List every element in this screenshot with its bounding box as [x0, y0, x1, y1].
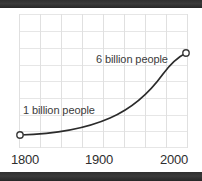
population-growth-figure: 1 billion people 6 billion people 1800 1… [0, 0, 202, 181]
x-axis-tick-1900: 1900 [85, 153, 113, 167]
plot-area: 1 billion people 6 billion people 1800 1… [0, 8, 202, 172]
line-chart-svg [0, 8, 202, 172]
bottom-border-band [0, 172, 202, 181]
data-point-marker-2000 [183, 50, 189, 56]
x-axis-tick-2000: 2000 [160, 153, 188, 167]
annotation-low-label: 1 billion people [23, 104, 95, 116]
data-point-marker-1800 [17, 132, 23, 138]
x-axis-tick-1800: 1800 [11, 153, 39, 167]
top-border-band [0, 0, 202, 8]
annotation-high-label: 6 billion people [96, 53, 168, 65]
